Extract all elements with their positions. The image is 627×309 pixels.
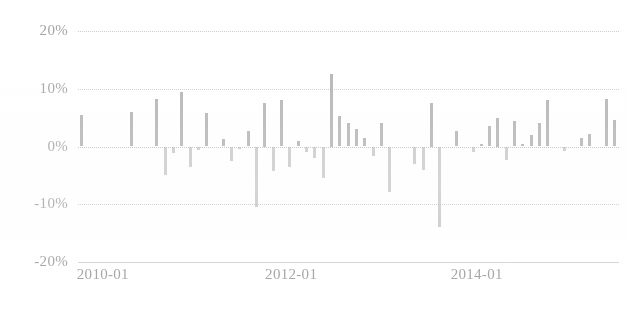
y-tick-label: 20%	[0, 22, 68, 39]
y-axis-tick-labels: 20%10%0%-10%-20%	[0, 0, 627, 309]
x-tick-label: 2010-01	[77, 266, 129, 283]
y-tick-label: -10%	[0, 195, 68, 212]
y-tick-label: -20%	[0, 253, 68, 270]
y-tick-label: 0%	[0, 138, 68, 155]
bar-chart: 20%10%0%-10%-20% 2010-012012-012014-01	[0, 0, 627, 309]
x-tick-label: 2014-01	[451, 266, 503, 283]
y-tick-label: 10%	[0, 80, 68, 97]
x-tick-label: 2012-01	[265, 266, 317, 283]
